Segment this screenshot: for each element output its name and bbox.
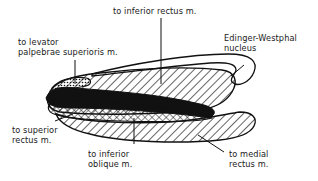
label-levator-line2: palpebrae superioris m. <box>18 47 118 57</box>
label-medial-rectus-line1: to medial <box>229 149 269 159</box>
label-medial-rectus-line2: rectus m. <box>229 159 268 169</box>
label-superior-rectus-line2: rectus m. <box>12 135 51 145</box>
label-superior-rectus-line1: to superior <box>12 125 58 135</box>
label-edinger-westphal-line1: Edinger-Westphal <box>224 33 297 43</box>
label-edinger-westphal-line2: nucleus <box>224 43 256 53</box>
diagram-canvas: to inferior rectus m. to levator palpebr… <box>0 0 318 181</box>
label-inferior-oblique-line1: to inferior <box>88 149 129 159</box>
label-inferior-rectus: to inferior rectus m. <box>113 6 197 16</box>
oculomotor-diagram-svg <box>0 0 318 181</box>
label-inferior-oblique-line2: oblique m. <box>88 159 132 169</box>
label-levator-line1: to levator <box>18 37 59 47</box>
